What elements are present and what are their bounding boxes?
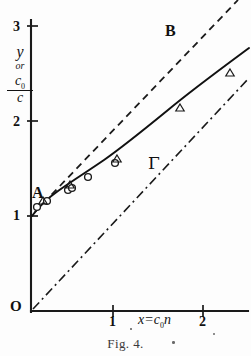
x-axis-label: x=c0n [138,313,171,330]
y-tick-label-1: 1 [13,209,20,223]
data-point-triangle [176,104,184,111]
x-axis-label-variable: n [164,312,171,327]
y-axis-label-fraction: c0 c [7,74,33,106]
x-tick-label-1: 1 [109,315,116,329]
y-axis-label-symbol: y [7,44,33,60]
figure-caption: Fig. 4. [0,336,251,352]
y-axis-label-numerator: c0 [7,74,33,92]
series-line-dashdot-origin [33,78,249,309]
plot-canvas [0,0,251,356]
numerator-subscript: 0 [21,81,25,90]
scan-speck [130,328,132,330]
scan-speck [213,333,215,335]
x-axis-label-equals: = [144,312,153,327]
y-axis-label-connector: or [7,61,33,71]
x-tick-label-2: 2 [199,315,206,329]
series-line-dashed-b [35,0,238,212]
origin-label: O [10,299,22,314]
y-axis-label: y or c0 c [7,44,33,106]
y-axis-label-denominator: c [7,91,33,105]
data-point-triangle [226,69,234,76]
annotation-label-gamma: Γ [148,155,160,172]
data-point-circle [112,160,119,167]
y-tick-label-3: 3 [13,20,20,34]
data-point-circle [85,174,92,181]
scan-speck [172,341,175,344]
figure-container: y or c0 c x=c0n 3 2 1 1 2 A B Γ O Fig. 4… [0,0,251,356]
annotation-label-b: B [165,23,176,39]
data-point-circle [34,204,41,211]
y-tick-label-2: 2 [13,115,20,129]
annotation-label-a: A [32,185,44,201]
